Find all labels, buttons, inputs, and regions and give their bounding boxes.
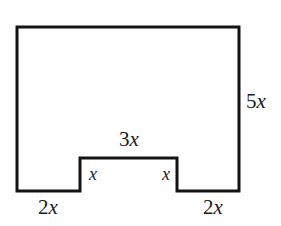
dimension-label-notch-top: 3x (119, 129, 139, 150)
dimension-label-notch-right-riser: x (162, 165, 170, 183)
dimension-variable: x (162, 164, 170, 184)
dimension-label-bottom-right: 2x (203, 197, 223, 218)
dimension-variable: x (89, 164, 97, 184)
dimension-variable: x (214, 195, 223, 219)
dimension-label-bottom-left: 2x (38, 197, 58, 218)
figure-canvas (0, 0, 281, 226)
dimension-coefficient: 2 (38, 195, 49, 219)
dimension-coefficient: 2 (203, 195, 214, 219)
dimension-variable: x (49, 195, 58, 219)
dimension-coefficient: 3 (119, 127, 130, 151)
geometry-figure: 5x 3x x x 2x 2x (0, 0, 281, 226)
dimension-label-right-side: 5x (246, 91, 266, 112)
dimension-label-notch-left-riser: x (89, 165, 97, 183)
dimension-variable: x (257, 89, 266, 113)
dimension-coefficient: 5 (246, 89, 257, 113)
dimension-variable: x (130, 127, 139, 151)
